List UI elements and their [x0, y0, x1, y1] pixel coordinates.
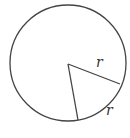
radius-line-down: [68, 64, 78, 120]
radius-label: r: [96, 54, 104, 70]
radius-line-right: [68, 64, 120, 84]
circle-diagram: r r: [0, 0, 130, 138]
arc-label: r: [106, 102, 114, 118]
